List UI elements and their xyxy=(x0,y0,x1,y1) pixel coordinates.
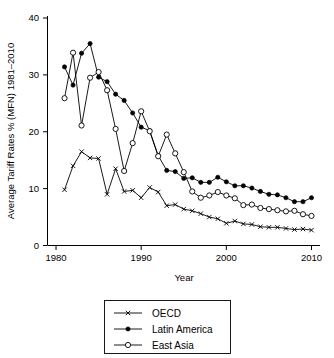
data-point-marker xyxy=(79,149,83,153)
series-polyline xyxy=(65,53,312,216)
data-series-layer xyxy=(62,41,314,232)
y-tick-label: 30 xyxy=(28,69,39,80)
data-point-marker xyxy=(131,111,135,115)
data-point-marker xyxy=(233,184,237,188)
data-point-marker xyxy=(275,193,279,197)
data-point-marker xyxy=(199,211,203,215)
data-point-marker xyxy=(190,189,195,194)
x-tick-label: 2010 xyxy=(301,252,322,263)
data-point-marker xyxy=(87,75,92,80)
y-tick-label: 20 xyxy=(28,126,39,137)
data-point-marker xyxy=(216,175,220,179)
data-point-marker xyxy=(88,41,92,45)
data-point-marker xyxy=(300,212,305,217)
data-point-marker xyxy=(71,164,75,168)
data-point-marker xyxy=(182,176,186,180)
data-point-marker xyxy=(267,192,271,196)
data-point-marker xyxy=(122,98,126,102)
data-point-marker xyxy=(224,180,228,184)
legend-item-oecd: OECD xyxy=(114,308,181,319)
x-axis-ticks: 1980199020002010 xyxy=(45,246,322,264)
data-point-marker xyxy=(79,51,83,55)
data-point-marker xyxy=(147,129,152,134)
data-point-marker xyxy=(224,193,229,198)
x-tick-label: 2000 xyxy=(216,252,237,263)
data-point-marker xyxy=(113,167,117,171)
data-point-marker xyxy=(156,190,160,194)
series-latin-america xyxy=(62,41,313,203)
data-point-marker xyxy=(79,123,84,128)
data-point-marker xyxy=(114,92,118,96)
data-point-marker xyxy=(258,205,263,210)
data-point-marker xyxy=(105,80,109,84)
data-point-marker xyxy=(258,189,262,193)
legend-label: OECD xyxy=(152,308,181,319)
data-point-marker xyxy=(190,176,194,180)
legend-label: East Asia xyxy=(152,340,194,351)
y-axis-ticks: 010203040 xyxy=(28,12,47,251)
data-point-marker xyxy=(139,196,143,200)
figure-container: Average Tariff Rates % (MFN) 1981–2010 0… xyxy=(0,0,334,358)
data-point-marker xyxy=(173,151,178,156)
y-tick-label: 10 xyxy=(28,183,39,194)
x-tick-label: 1980 xyxy=(45,252,66,263)
data-point-marker xyxy=(241,203,246,208)
data-point-marker xyxy=(130,141,135,146)
data-point-marker xyxy=(126,327,130,331)
legend-label: Latin America xyxy=(152,324,213,335)
data-point-marker xyxy=(147,185,151,189)
data-point-marker xyxy=(125,342,130,347)
data-point-marker xyxy=(165,168,169,172)
y-tick-label: 40 xyxy=(28,12,39,23)
series-oecd xyxy=(62,149,313,232)
x-tick-label: 1990 xyxy=(131,252,152,263)
data-point-marker xyxy=(309,196,313,200)
data-point-marker xyxy=(301,200,305,204)
series-polyline xyxy=(65,44,312,202)
chart-legend: OECDLatin AmericaEast Asia xyxy=(105,301,231,354)
data-point-marker xyxy=(249,202,254,207)
tariff-rates-line-chart: Average Tariff Rates % (MFN) 1981–2010 0… xyxy=(0,0,334,358)
data-point-marker xyxy=(96,69,101,74)
data-point-marker xyxy=(292,200,296,204)
y-axis-title: Average Tariff Rates % (MFN) 1981–2010 xyxy=(5,43,16,219)
data-point-marker xyxy=(215,189,220,194)
data-point-marker xyxy=(207,180,211,184)
data-point-marker xyxy=(156,154,161,159)
data-point-marker xyxy=(309,213,314,218)
data-point-marker xyxy=(122,168,127,173)
data-point-marker xyxy=(207,193,212,198)
legend-item-east-asia: East Asia xyxy=(114,340,194,351)
data-point-marker xyxy=(62,188,66,192)
x-axis-title: Year xyxy=(174,272,193,283)
y-tick-label: 0 xyxy=(34,240,39,251)
data-point-marker xyxy=(164,132,169,137)
data-point-marker xyxy=(70,50,75,55)
data-point-marker xyxy=(232,196,237,201)
data-point-marker xyxy=(266,207,271,212)
legend-item-latin-america: Latin America xyxy=(114,324,213,335)
data-point-marker xyxy=(250,186,254,190)
data-point-marker xyxy=(62,65,66,69)
data-point-marker xyxy=(283,209,288,214)
data-point-marker xyxy=(62,96,67,101)
data-point-marker xyxy=(284,196,288,200)
data-point-marker xyxy=(181,170,186,175)
data-point-marker xyxy=(139,109,144,114)
data-point-marker xyxy=(113,126,118,131)
data-point-marker xyxy=(199,180,203,184)
data-point-marker xyxy=(275,208,280,213)
data-point-marker xyxy=(71,83,75,87)
data-point-marker xyxy=(173,169,177,173)
data-point-marker xyxy=(292,208,297,213)
data-point-marker xyxy=(198,195,203,200)
data-point-marker xyxy=(241,184,245,188)
series-polyline xyxy=(65,152,312,230)
data-point-marker xyxy=(139,125,143,129)
data-point-marker xyxy=(105,88,110,93)
